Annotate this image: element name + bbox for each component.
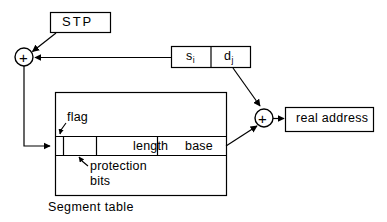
displacement-base: d [224, 49, 231, 63]
base-field-label: base [185, 140, 213, 153]
arrow-displacement-to-adder [233, 68, 260, 106]
arrow-stp-to-adder [33, 33, 57, 52]
adder-left-plus-label: + [19, 50, 28, 65]
length-field-label: length [133, 140, 168, 153]
segment-number-base: s [186, 49, 192, 63]
diagram-canvas: STP + + si dj real address length base f… [0, 0, 387, 222]
real-address-label: real address [296, 112, 368, 125]
displacement-field-label: dj [224, 50, 233, 63]
protection-bits-annotation-line2: bits [90, 175, 110, 188]
arrow-base-to-adder [226, 126, 257, 146]
protection-bits-annotation-line1: protection [90, 160, 147, 173]
stp-label: STP [62, 15, 93, 28]
segment-number-subscript: i [193, 55, 195, 65]
adder-right-plus-label: + [258, 111, 267, 126]
segment-table-caption: Segment table [48, 201, 134, 214]
segment-number-field-label: si [186, 50, 194, 63]
flag-annotation-label: flag [67, 111, 88, 124]
arrow-adder-to-segment-table [24, 66, 50, 146]
